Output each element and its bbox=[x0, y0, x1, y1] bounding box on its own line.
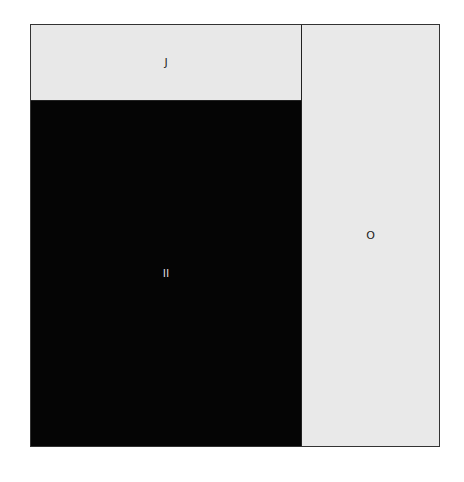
region-ii: II bbox=[31, 101, 302, 446]
region-o-label: O bbox=[366, 229, 375, 242]
region-j-label: J bbox=[164, 56, 167, 69]
diagram-frame: J II O bbox=[30, 24, 440, 447]
region-j: J bbox=[31, 25, 302, 101]
region-o: O bbox=[302, 25, 439, 446]
region-ii-label: II bbox=[163, 267, 170, 280]
